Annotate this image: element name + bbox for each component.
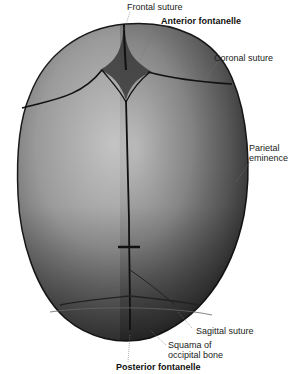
sagittal-suture-label: Sagittal suture	[196, 326, 254, 336]
frontal-suture-label: Frontal suture	[127, 2, 183, 12]
coronal-suture-label: Coronal suture	[214, 53, 273, 63]
parietal-eminence-label-line1: Parietal	[249, 143, 280, 153]
posterior-fontanelle-label: Posterior fontanelle	[116, 362, 201, 372]
parietal-eminence-label-line2: eminence	[249, 153, 288, 163]
skull-diagram: Frontal suture Anterior fontanelle Coron…	[0, 0, 291, 374]
squama-occipital-label-line2: occipital bone	[168, 350, 223, 360]
squama-occipital-label-line1: Squama of	[168, 340, 212, 350]
anterior-fontanelle-label: Anterior fontanelle	[161, 16, 241, 26]
